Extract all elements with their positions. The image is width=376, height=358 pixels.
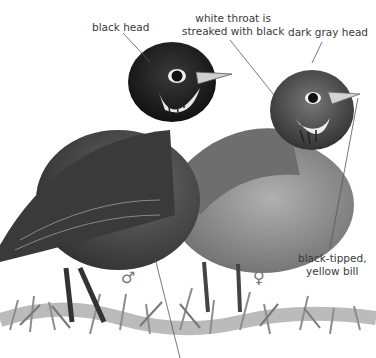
leader-dark-gray-head	[312, 42, 322, 63]
label-white-throat-line2: streaked with black	[182, 25, 284, 38]
grass	[0, 288, 376, 334]
label-white-throat-line1: white throat is	[182, 12, 284, 25]
leader-white-throat-bottom	[155, 258, 180, 358]
female-symbol-icon: ♀	[253, 270, 265, 286]
label-bill: black-tipped, yellow bill	[298, 252, 367, 278]
male-robin	[0, 42, 232, 322]
birds-artwork	[0, 0, 376, 358]
leader-dark-gray-head-region	[230, 40, 290, 115]
label-bill-line1: black-tipped,	[298, 252, 367, 265]
label-white-throat: white throat is streaked with black	[182, 12, 284, 38]
male-symbol-icon: ♂	[121, 270, 135, 286]
robin-illustration: black head white throat is streaked with…	[0, 0, 376, 358]
label-black-head: black head	[92, 21, 149, 34]
leader-black-head	[123, 33, 150, 62]
label-bill-line2: yellow bill	[298, 265, 367, 278]
label-dark-gray-head: dark gray head	[288, 26, 368, 39]
